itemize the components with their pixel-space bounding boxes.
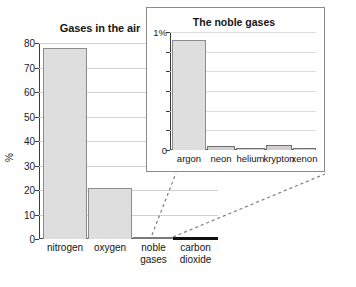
main-y-tick-label: 20	[15, 185, 35, 196]
main-category-label-line1: carbon	[167, 242, 224, 254]
main-y-tick	[35, 239, 39, 240]
main-y-tick-labels: 01020304050607080	[13, 43, 35, 239]
main-y-tick	[35, 68, 39, 69]
main-y-tick-label: 70	[15, 62, 35, 73]
main-bar	[88, 188, 132, 239]
noble-gases-inset-panel: The noble gases 1%0argonneonheliumkrypto…	[146, 7, 325, 172]
chart-screenshot: Gases in the air % 01020304050607080 nit…	[0, 0, 356, 287]
main-chart-title: Gases in the air	[44, 22, 156, 34]
carbon-dioxide-baseline-marker	[173, 237, 218, 240]
main-y-tick	[35, 190, 39, 191]
inset-y-tick	[166, 130, 170, 131]
main-y-tick-label: 50	[15, 111, 35, 122]
inset-y-tick	[166, 91, 170, 92]
inset-chart-title: The noble gases	[169, 16, 299, 28]
main-y-tick-label: 0	[15, 234, 35, 245]
inset-y-top-label: 1%	[148, 27, 167, 38]
main-bar	[43, 48, 87, 239]
main-category-label: carbondioxide	[167, 242, 224, 266]
main-y-tick-label: 40	[15, 136, 35, 147]
inset-bar	[172, 40, 206, 150]
main-y-tick	[35, 43, 39, 44]
inset-plot-area	[170, 32, 316, 150]
main-category-label-line2: dioxide	[167, 254, 224, 266]
inset-y-tick	[166, 71, 170, 72]
main-y-tick	[35, 92, 39, 93]
main-y-tick-label: 10	[15, 209, 35, 220]
main-y-tick	[35, 215, 39, 216]
inset-bar	[236, 148, 265, 151]
main-bar	[133, 237, 174, 240]
inset-y-tick	[166, 52, 170, 53]
main-y-tick-label: 30	[15, 160, 35, 171]
inset-bar	[293, 148, 316, 151]
inset-bar	[266, 145, 292, 150]
inset-gridline	[170, 32, 316, 33]
main-y-tick	[35, 166, 39, 167]
main-y-tick	[35, 141, 39, 142]
main-y-tick	[35, 117, 39, 118]
main-y-tick-label: 60	[15, 87, 35, 98]
inset-bar	[207, 146, 235, 150]
main-y-tick-label: 80	[15, 38, 35, 49]
inset-category-label: xenon	[288, 153, 321, 164]
inset-y-zero-label: 0	[148, 145, 167, 156]
inset-y-tick	[166, 111, 170, 112]
